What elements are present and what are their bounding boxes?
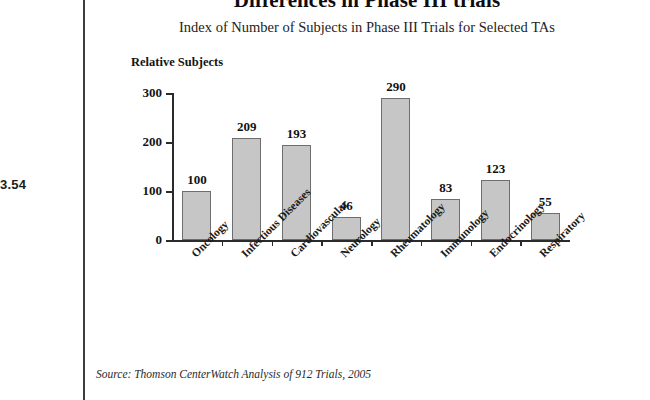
- y-tick-mark: [166, 142, 172, 144]
- bar-value-label: 193: [287, 126, 307, 142]
- x-tick-mark: [471, 240, 473, 246]
- y-axis-line: [172, 93, 174, 240]
- x-tick-mark: [272, 240, 274, 246]
- bar-value-label: 83: [439, 180, 452, 196]
- x-tick-mark: [371, 240, 373, 246]
- figure-number: 3.54: [0, 177, 72, 192]
- source-note: Source: Thomson CenterWatch Analysis of …: [96, 368, 371, 380]
- y-tick-label: 300: [143, 85, 163, 101]
- x-tick-mark: [321, 240, 323, 246]
- y-tick-mark: [166, 93, 172, 95]
- x-tick-mark: [222, 240, 224, 246]
- chart-title: Differences in Phase III trials: [84, 0, 650, 13]
- bar-value-label: 290: [386, 79, 406, 95]
- y-tick-label: 200: [143, 134, 163, 150]
- y-tick-label: 100: [143, 183, 163, 199]
- margin-rule: [83, 0, 85, 400]
- x-tick-mark: [520, 240, 522, 246]
- bar-value-label: 100: [187, 172, 207, 188]
- y-tick-label: 0: [156, 232, 163, 248]
- bar: [232, 138, 261, 240]
- y-axis-caption: Relative Subjects: [131, 55, 223, 70]
- figure-page: 3.54 Differences in Phase III trials Ind…: [0, 0, 650, 400]
- plot-area: 0100200300 100209193462908312355 Oncolog…: [172, 93, 570, 240]
- x-tick-mark: [421, 240, 423, 246]
- chart-subtitle: Index of Number of Subjects in Phase III…: [84, 19, 650, 36]
- bar-value-label: 123: [486, 161, 506, 177]
- bar: [381, 98, 410, 240]
- bar-value-label: 209: [237, 119, 257, 135]
- y-tick-mark: [166, 191, 172, 193]
- y-tick-mark: [166, 240, 172, 242]
